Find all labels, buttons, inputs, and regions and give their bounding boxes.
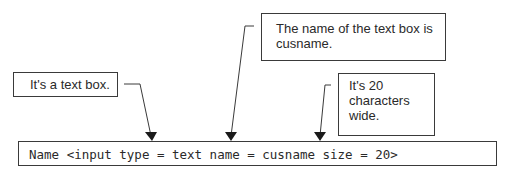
callout-text-box: It's a text box. xyxy=(13,72,118,97)
arrow-text-box xyxy=(124,84,157,141)
callout-text: It's a text box. xyxy=(30,77,110,92)
callout-text: It's 20 characters wide. xyxy=(349,78,410,123)
arrow-name xyxy=(225,26,254,141)
callout-name: The name of the text box is cusname. xyxy=(261,13,446,61)
arrow-size xyxy=(314,85,331,141)
callout-text: The name of the text box is cusname. xyxy=(276,21,433,51)
callout-size: It's 20 characters wide. xyxy=(338,73,435,136)
code-line: Name <input type = text name = cusname s… xyxy=(29,147,398,162)
code-line-box: Name <input type = text name = cusname s… xyxy=(18,141,497,166)
